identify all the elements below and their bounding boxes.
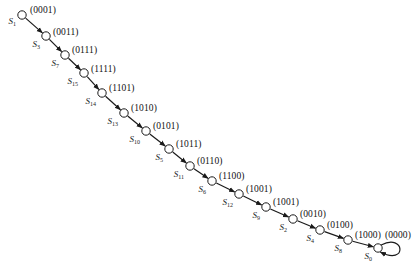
state-name-label: S4 (307, 234, 315, 245)
state-name-label: S12 (223, 198, 234, 209)
state-node (80, 69, 88, 77)
transition-edge (243, 196, 261, 205)
transition-edge (128, 116, 143, 128)
state-binary-label: (0111) (72, 46, 97, 56)
state-subscript-text: 5 (160, 157, 163, 163)
self-loop-edge (380, 242, 400, 255)
transition-edge (297, 221, 315, 228)
state-name-label: S11 (174, 170, 184, 181)
state-subscript-text: 3 (37, 44, 40, 50)
state-node (235, 190, 243, 198)
state-binary-label: (1001) (273, 198, 299, 208)
state-binary-label: (1011) (176, 140, 202, 150)
state-transition-diagram: S1(0001)S3(0011)S7(0111)S15(1111)S14(110… (0, 0, 420, 266)
state-node (42, 32, 50, 40)
transition-edge (68, 58, 80, 69)
state-name-label: S15 (68, 77, 79, 88)
transition-edge (194, 169, 208, 179)
state-binary-label: (1001) (246, 185, 272, 195)
state-name-label: S14 (86, 97, 97, 108)
state-node (142, 127, 150, 135)
state-binary-label: (0010) (300, 210, 326, 220)
state-name-label: S2 (280, 223, 288, 234)
state-node (208, 177, 216, 185)
state-subscript-text: 13 (112, 121, 118, 127)
state-node (186, 162, 194, 170)
state-binary-label: (0101) (153, 122, 179, 132)
transition-edge (353, 241, 374, 247)
state-binary-label: (0011) (53, 28, 79, 38)
state-name-label: S5 (156, 153, 164, 164)
state-binary-label: (1100) (219, 172, 245, 182)
transition-edge (49, 39, 61, 51)
state-node (18, 11, 26, 19)
state-binary-label: (0000) (385, 231, 411, 241)
transition-edge (270, 209, 288, 217)
state-subscript-text: 8 (339, 248, 342, 254)
state-node (61, 51, 69, 59)
state-binary-label: (1111) (91, 65, 116, 75)
transition-edge (106, 96, 121, 110)
state-subscript-text: 11 (178, 174, 184, 180)
state-subscript-text: 12 (227, 202, 233, 208)
state-node (98, 89, 106, 97)
state-name-label: S6 (199, 185, 207, 196)
state-name-label: S13 (108, 117, 119, 128)
self-loop-group (380, 242, 400, 255)
state-name-label: S8 (335, 244, 343, 255)
state-subscript-text: 6 (203, 189, 206, 195)
state-name-label: S9 (253, 211, 261, 222)
state-node (165, 145, 173, 153)
diagram-canvas (0, 0, 420, 266)
state-name-label: S1 (9, 17, 17, 28)
transition-edge (216, 183, 234, 192)
state-node (344, 236, 352, 244)
state-binary-label: (0100) (327, 221, 353, 231)
transition-edge (26, 18, 43, 33)
state-subscript-text: 2 (284, 227, 287, 233)
state-name-label: S7 (52, 59, 60, 70)
state-subscript-text: 7 (56, 63, 59, 69)
state-name-label: S0 (365, 252, 373, 263)
state-subscript-text: 0 (369, 256, 372, 262)
state-node (374, 244, 382, 252)
transition-edge (150, 134, 165, 146)
state-node (289, 215, 297, 223)
state-subscript-text: 14 (90, 101, 96, 107)
state-subscript-text: 10 (134, 139, 140, 145)
state-subscript-text: 9 (257, 215, 260, 221)
state-binary-label: (1000) (355, 231, 381, 241)
state-node (120, 109, 128, 117)
state-subscript-text: 4 (311, 238, 314, 244)
state-node (316, 226, 324, 234)
transition-edge (173, 152, 187, 163)
state-name-label: S3 (33, 40, 41, 51)
state-binary-label: (1101) (109, 84, 135, 94)
state-binary-label: (1010) (131, 104, 157, 114)
state-node (262, 203, 270, 211)
state-subscript-text: 1 (13, 21, 16, 27)
transition-edge (87, 77, 99, 90)
state-subscript-text: 15 (72, 81, 78, 87)
state-binary-label: (0001) (30, 6, 56, 16)
transition-edge (325, 232, 344, 239)
state-binary-label: (0110) (197, 157, 223, 167)
state-name-label: S10 (130, 135, 141, 146)
